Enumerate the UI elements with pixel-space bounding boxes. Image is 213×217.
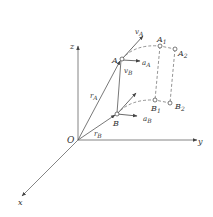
vector-vA-label: vA (135, 28, 144, 37)
segment-AB (117, 60, 121, 113)
vector-aA-label: aA (142, 59, 151, 68)
vector-aB (117, 114, 137, 116)
segment-A1B1 (155, 46, 160, 100)
x-axis-label: x (18, 198, 23, 207)
point-A-label: A (111, 56, 118, 65)
trajectory-A (122, 46, 175, 59)
vector-vB (117, 93, 136, 114)
z-axis-label: z (69, 42, 75, 51)
rigid-body-translation-diagram: z y x O A B A1 A2 B1 B2 rA rB vA vB aA a… (0, 0, 213, 217)
point-B1-label: B1 (150, 104, 161, 114)
point-B2-label: B2 (174, 102, 185, 112)
vector-rA-label: rA (90, 92, 98, 101)
point-A2-label: A2 (177, 49, 188, 59)
point-B-label: B (112, 119, 119, 128)
vector-rB-label: rB (94, 130, 102, 139)
y-axis-label: y (197, 137, 203, 146)
point-B (115, 112, 119, 116)
origin-label: O (67, 135, 75, 145)
point-A2 (173, 47, 177, 51)
segment-A2B2 (170, 49, 175, 103)
trajectory-B (117, 100, 170, 114)
point-A (120, 57, 124, 61)
point-A1-label: A1 (156, 35, 167, 45)
vector-vB-label: vB (124, 67, 133, 76)
point-B2 (168, 101, 172, 105)
vector-aB-label: aB (143, 115, 152, 124)
vector-rA (78, 61, 120, 140)
point-A1 (158, 44, 162, 48)
vector-aA (122, 60, 140, 61)
x-axis (22, 140, 78, 196)
point-B1 (153, 98, 157, 102)
